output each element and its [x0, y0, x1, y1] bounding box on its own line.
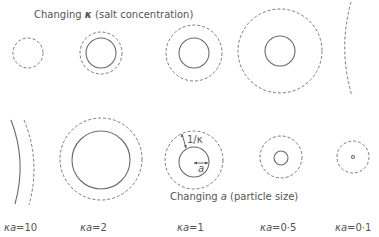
particle-boundary — [179, 147, 209, 177]
particle-boundary — [86, 38, 116, 68]
ka-label-1: κa=1 — [177, 222, 204, 233]
double-layer-arc — [345, 2, 352, 96]
particle-boundary — [179, 38, 209, 68]
double-layer-boundary — [337, 141, 369, 173]
double-layer-boundary — [238, 9, 322, 93]
double-layer-boundary — [13, 38, 43, 68]
particle-boundary — [352, 156, 355, 159]
arrow-head-icon — [205, 161, 208, 164]
arrow-head-icon — [184, 145, 187, 148]
ka-label-01: κa=0·1 — [335, 222, 371, 233]
particle-ka-10-bottom — [11, 120, 34, 205]
particle-ka-05-bottom — [260, 136, 302, 178]
ka-label-10: κa=10 — [4, 222, 37, 233]
particle-ka-10-top — [13, 38, 43, 68]
double-layer-boundary — [166, 25, 222, 81]
bottom-caption: Changing a (particle size) — [170, 191, 298, 202]
double-layer-arc — [24, 120, 34, 205]
debye-length-label: 1/κ — [187, 134, 203, 145]
ka-labels: κa=10 κa=2 κa=1 κa=0·5 κa=0·1 — [4, 222, 371, 233]
particle-boundary — [265, 36, 295, 66]
particle-boundary — [72, 131, 130, 189]
double-layer-diagram: Changing κ (salt concentration) — [0, 0, 379, 237]
particle-ka-2-bottom — [60, 118, 142, 200]
radius-label: a — [198, 163, 204, 174]
particle-ka-2-top — [80, 32, 122, 74]
particle-ka-1-top — [166, 25, 222, 81]
top-caption: Changing κ (salt concentration) — [34, 9, 193, 20]
particle-ka-1-bottom: 1/κ a — [165, 131, 223, 189]
ka-label-2: κa=2 — [80, 222, 107, 233]
particle-boundary — [274, 151, 288, 165]
arrow-head-icon — [194, 161, 197, 164]
particle-ka-01-top — [345, 2, 352, 96]
particle-ka-01-bottom — [337, 141, 369, 173]
particle-ka-05-top — [238, 9, 322, 93]
particle-arc — [11, 120, 20, 204]
ka-label-05: κa=0·5 — [260, 222, 296, 233]
double-layer-boundary — [260, 136, 302, 178]
